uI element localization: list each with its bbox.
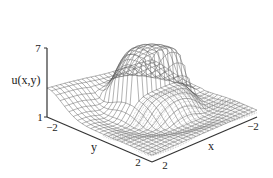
surface-mesh	[47, 44, 257, 156]
mesh-line-y	[95, 48, 200, 131]
y-tick-label-end: 2	[135, 156, 141, 168]
mesh-line-x	[121, 44, 226, 123]
x-axis-label: x	[208, 139, 214, 153]
z-tick-label-max: 7	[35, 42, 41, 54]
mesh-line-y	[139, 105, 244, 150]
mesh-line-x	[65, 83, 170, 147]
z-tick-label-min: 1	[37, 111, 43, 123]
z-axis-label: u(x,y)	[12, 73, 41, 87]
mesh-line-x	[148, 61, 253, 112]
x-tick-label-start: 2	[162, 159, 168, 171]
y-axis-label: y	[91, 140, 97, 154]
y-tick-label-start: −2	[46, 121, 58, 133]
floor-contour-line	[135, 102, 240, 149]
surface-plot: 7 1 u(x,y) −2 y 2 2 x −2	[0, 0, 273, 178]
mesh-line-y	[56, 64, 161, 95]
mesh-line-y	[60, 67, 165, 101]
x-tick-label-end: −2	[247, 120, 259, 132]
